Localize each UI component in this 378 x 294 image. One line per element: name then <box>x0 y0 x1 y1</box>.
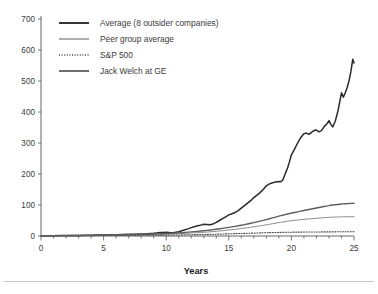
line-chart: 0100200300400500600700 0510152025 Averag… <box>0 0 378 294</box>
y-tick-label: 300 <box>21 139 35 148</box>
x-tick-label: 15 <box>224 244 234 253</box>
x-axis-ticks: 0510152025 <box>39 236 359 253</box>
x-tick-label: 25 <box>349 244 359 253</box>
legend-label: S&P 500 <box>100 50 133 60</box>
x-tick-label: 10 <box>162 244 172 253</box>
y-tick-label: 0 <box>30 232 35 241</box>
legend-label: Peer group average <box>100 34 174 44</box>
footer-divider <box>4 281 374 282</box>
y-tick-label: 700 <box>21 15 35 24</box>
y-tick-label: 400 <box>21 108 35 117</box>
y-tick-label: 200 <box>21 170 35 179</box>
series-lines <box>41 59 354 235</box>
y-tick-label: 500 <box>21 77 35 86</box>
chart-figure: 0100200300400500600700 0510152025 Averag… <box>0 0 378 294</box>
x-axis-title: Years <box>184 266 209 276</box>
y-axis-ticks: 0100200300400500600700 <box>21 15 41 241</box>
x-tick-label: 20 <box>287 244 297 253</box>
chart-legend: Average (8 outsider companies)Peer group… <box>59 18 219 76</box>
legend-label: Jack Welch at GE <box>100 66 167 76</box>
y-tick-label: 100 <box>21 201 35 210</box>
x-tick-label: 5 <box>101 244 106 253</box>
legend-label: Average (8 outsider companies) <box>100 18 219 28</box>
x-tick-label: 0 <box>39 244 44 253</box>
y-tick-label: 600 <box>21 46 35 55</box>
